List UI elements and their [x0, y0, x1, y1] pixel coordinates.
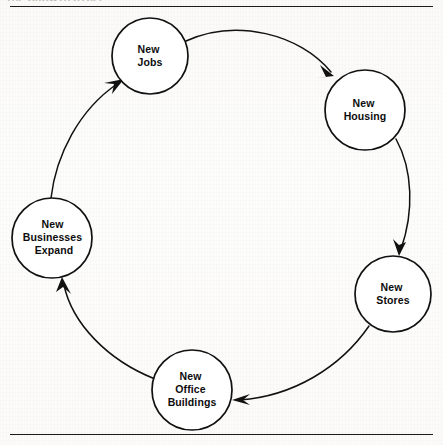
node-new-jobs-label: New Jobs — [138, 43, 163, 68]
node-new-stores-line-0: New — [381, 281, 404, 293]
edge-jobs-to-housing — [186, 30, 334, 78]
node-new-stores-line-1: Stores — [376, 294, 409, 306]
edge-housing-to-stores — [393, 139, 410, 256]
node-new-jobs-line-1: Jobs — [138, 56, 163, 68]
node-new-businesses-expand[interactable]: New Businesses Expand — [12, 198, 92, 278]
node-new-housing-line-0: New — [353, 97, 376, 109]
node-new-office-buildings[interactable]: New Office Buildings — [152, 350, 232, 430]
node-new-office-buildings-line-2: Buildings — [168, 396, 217, 408]
edge-offices-to-business-arrowhead — [56, 277, 71, 294]
node-new-jobs[interactable]: New Jobs — [112, 18, 188, 94]
edge-offices-to-business — [56, 277, 155, 379]
edge-business-to-jobs-path — [51, 84, 117, 198]
node-new-office-buildings-line-1: Office — [175, 383, 205, 395]
node-new-businesses-expand-line-1: Businesses — [23, 231, 82, 243]
node-new-housing-line-1: Housing — [344, 110, 387, 122]
node-new-office-buildings-line-0: New — [180, 370, 203, 382]
edge-jobs-to-housing-path — [186, 30, 331, 72]
diagram-page: THE GROWTH CYCLE — [0, 0, 443, 445]
cycle-diagram: New Jobs New Housing New Stores New — [0, 0, 443, 445]
edge-stores-to-offices-path — [240, 326, 369, 400]
node-new-housing[interactable]: New Housing — [325, 70, 405, 150]
node-new-businesses-expand-line-2: Expand — [35, 244, 74, 256]
node-new-stores[interactable]: New Stores — [355, 256, 431, 332]
edge-business-to-jobs — [51, 79, 124, 198]
edge-offices-to-business-path — [64, 285, 155, 379]
edge-housing-to-stores-path — [396, 139, 410, 249]
node-new-businesses-expand-line-0: New — [42, 218, 65, 230]
edge-stores-to-offices — [232, 326, 369, 405]
node-new-stores-label: New Stores — [376, 281, 409, 306]
node-new-jobs-line-0: New — [138, 43, 161, 55]
